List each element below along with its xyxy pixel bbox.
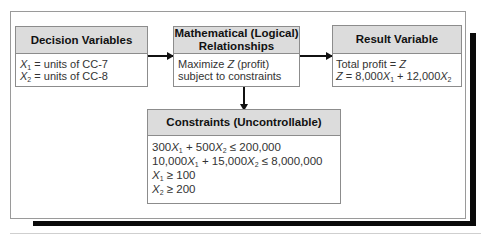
constraint-2: 10,000X1 + 15,000X2 ≤ 8,000,000 bbox=[152, 154, 336, 168]
arrow-math-to-result bbox=[300, 55, 332, 57]
decision-variables-body: X1 = units of CC-7 X2 = units of CC-8 bbox=[16, 54, 147, 84]
frame-shadow-right bbox=[470, 33, 476, 226]
decision-variables-box: Decision Variables X1 = units of CC-7 X2… bbox=[15, 26, 148, 87]
constraint-1: 300X1 + 500X2 ≤ 200,000 bbox=[152, 140, 336, 154]
result-variable-title: Result Variable bbox=[333, 26, 461, 54]
result-variable-body: Total profit = Z Z = 8,000X1 + 12,000X2 bbox=[333, 54, 461, 84]
constraints-title: Constraints (Uncontrollable) bbox=[148, 110, 340, 136]
arrow-decision-to-math bbox=[148, 55, 173, 57]
arrow-math-to-constraints bbox=[243, 87, 245, 110]
objective-line: Maximize Z (profit) bbox=[178, 58, 295, 70]
constraints-box: Constraints (Uncontrollable) 300X1 + 500… bbox=[147, 109, 341, 204]
total-profit-line: Total profit = Z bbox=[336, 58, 457, 70]
constraint-4: X2 ≥ 200 bbox=[152, 182, 336, 196]
math-relationships-body: Maximize Z (profit) subject to constrain… bbox=[174, 54, 299, 84]
result-variable-box: Result Variable Total profit = Z Z = 8,0… bbox=[332, 25, 462, 87]
subject-to-line: subject to constraints bbox=[178, 70, 295, 82]
decision-variable-x1: X1 = units of CC-7 bbox=[20, 58, 143, 70]
decision-variables-title: Decision Variables bbox=[16, 27, 147, 54]
constraint-3: X1 ≥ 100 bbox=[152, 168, 336, 182]
decision-variable-x2: X2 = units of CC-8 bbox=[20, 70, 143, 82]
objective-function-line: Z = 8,000X1 + 12,000X2 bbox=[336, 70, 457, 82]
constraints-body: 300X1 + 500X2 ≤ 200,000 10,000X1 + 15,00… bbox=[148, 136, 340, 198]
frame-shadow-bottom bbox=[33, 221, 476, 226]
math-relationships-title: Mathematical (Logical) Relationships bbox=[174, 27, 299, 54]
math-relationships-box: Mathematical (Logical) Relationships Max… bbox=[173, 26, 300, 87]
divider-line bbox=[10, 233, 481, 234]
